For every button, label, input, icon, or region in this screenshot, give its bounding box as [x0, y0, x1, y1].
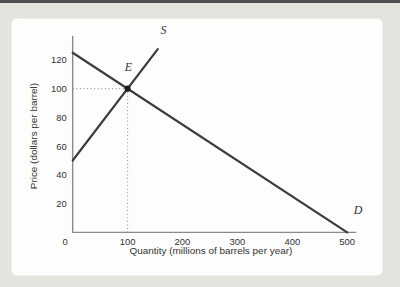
x-axis-title: Quantity (millions of barrels per year) — [129, 245, 292, 256]
curve-demand — [73, 53, 348, 233]
equilibrium-label: E — [124, 60, 133, 74]
x-tick-label-0: 0 — [62, 236, 67, 247]
supply-demand-chart: 20406080100120 0100200300400500 SD E Qua… — [12, 19, 382, 275]
curve-supply — [73, 49, 158, 160]
curve-label-demand: D — [353, 203, 363, 217]
equilibrium-guides — [73, 89, 128, 233]
curve-label-supply: S — [161, 23, 167, 37]
figure-panel: 20406080100120 0100200300400500 SD E Qua… — [11, 18, 383, 276]
y-axis-title: Price (dollars per barrel) — [28, 83, 39, 189]
y-tick-label-40: 40 — [56, 169, 66, 180]
series-lines: SD — [73, 23, 363, 232]
y-tick-label-60: 60 — [56, 141, 66, 152]
window-top-border — [0, 0, 400, 3]
equilibrium-point — [124, 86, 130, 92]
y-tick-label-100: 100 — [51, 83, 67, 94]
x-tick-label-500: 500 — [339, 236, 355, 247]
y-tick-labels: 20406080100120 — [51, 54, 67, 209]
equilibrium-marker: E — [124, 60, 133, 91]
y-tick-label-120: 120 — [51, 54, 67, 65]
y-tick-label-20: 20 — [56, 198, 66, 209]
axes — [73, 36, 356, 232]
screenshot-root: 20406080100120 0100200300400500 SD E Qua… — [0, 0, 400, 287]
y-tick-label-80: 80 — [56, 112, 66, 123]
